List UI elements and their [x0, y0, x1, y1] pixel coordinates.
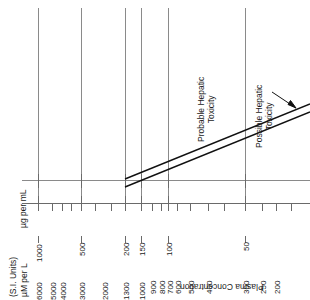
- si-tick-label-4000: 4000: [59, 282, 68, 300]
- si-tick-label-3000: 3000: [78, 282, 87, 300]
- possible-label-arrow: [272, 92, 296, 108]
- si-tick-label-2000: 2000: [101, 282, 110, 300]
- si-tick-label-200: 200: [273, 281, 282, 294]
- ug-tick-label-1000: 1000: [35, 244, 44, 262]
- zone-label-probable: Probable Hepatic Toxicity: [196, 77, 216, 142]
- axis-label-um-per-l: µM per L: [19, 263, 29, 297]
- si-tick-label-900: 900: [149, 281, 158, 294]
- ug-tick-label-100: 100: [165, 243, 174, 256]
- ug-tick-label-150: 150: [138, 243, 147, 256]
- zone-label-probable-line1: Probable Hepatic: [196, 77, 206, 142]
- chart-canvas: [0, 0, 310, 300]
- ug-tick-label-200: 200: [122, 243, 131, 256]
- si-tick-label-5000: 5000: [49, 282, 58, 300]
- zone-label-probable-line2: Toxicity: [206, 95, 216, 123]
- si-tick-label-6000: 6000: [35, 282, 44, 300]
- axis-label-si-units: (S.I. Units): [8, 257, 18, 297]
- si-tick-label-1300: 1300: [122, 282, 131, 300]
- si-tick-label-1000: 1000: [138, 282, 147, 300]
- toxicity-line-group: [125, 104, 310, 187]
- ug-tick-label-50: 50: [242, 242, 251, 251]
- si-minor-tick-group: [53, 203, 292, 211]
- possible-hepatic-toxicity-line: [125, 112, 310, 187]
- zone-label-possible-line2: Toxicity: [264, 102, 274, 130]
- probable-hepatic-toxicity-line: [125, 104, 310, 179]
- nomogram-chart: Probable Hepatic Toxicity Possible Hepat…: [0, 0, 310, 300]
- axis-label-ug-per-ml: µg per mL: [18, 190, 28, 228]
- ug-tick-label-500: 500: [78, 243, 87, 256]
- zone-label-possible: Possible Hepatic Toxicity: [254, 85, 274, 148]
- axis-title-plasma-concentration: Plasma Concentration: [180, 282, 264, 292]
- zone-label-possible-line1: Possible Hepatic: [254, 85, 264, 148]
